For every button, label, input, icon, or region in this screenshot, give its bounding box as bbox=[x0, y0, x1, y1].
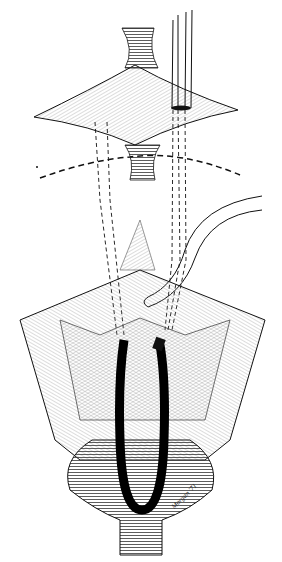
lower-field bbox=[20, 220, 265, 460]
upper-incision bbox=[34, 10, 238, 180]
base-structure bbox=[68, 440, 214, 555]
surgical-illustration bbox=[0, 0, 282, 562]
